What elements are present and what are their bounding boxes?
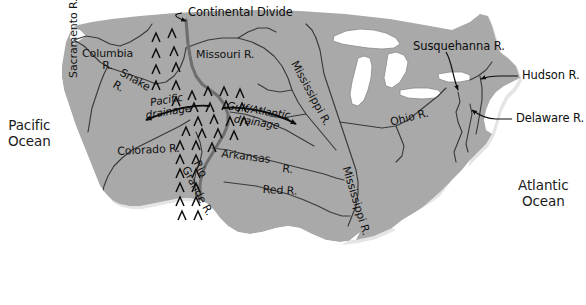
missouri-river-label: Missouri R. <box>196 49 254 61</box>
delaware-river-label: Delaware R. <box>516 112 584 124</box>
sacramento-river-label: Sacramento R. <box>68 0 80 78</box>
red-river-label: Red R. <box>262 184 297 197</box>
map-container: PacificOcean AtlanticOcean Continental D… <box>0 0 586 305</box>
hudson-river-label: Hudson R. <box>522 69 580 81</box>
chevron-icon <box>178 211 186 220</box>
arkansas-river-suffix-label: R. <box>282 163 294 176</box>
atlantic-ocean-label: AtlanticOcean <box>518 178 569 210</box>
susquehanna-river-label: Susquehanna R. <box>413 40 505 52</box>
continental-divide-label: Continental Divide <box>188 6 293 18</box>
pacific-ocean-label: PacificOcean <box>8 118 51 150</box>
